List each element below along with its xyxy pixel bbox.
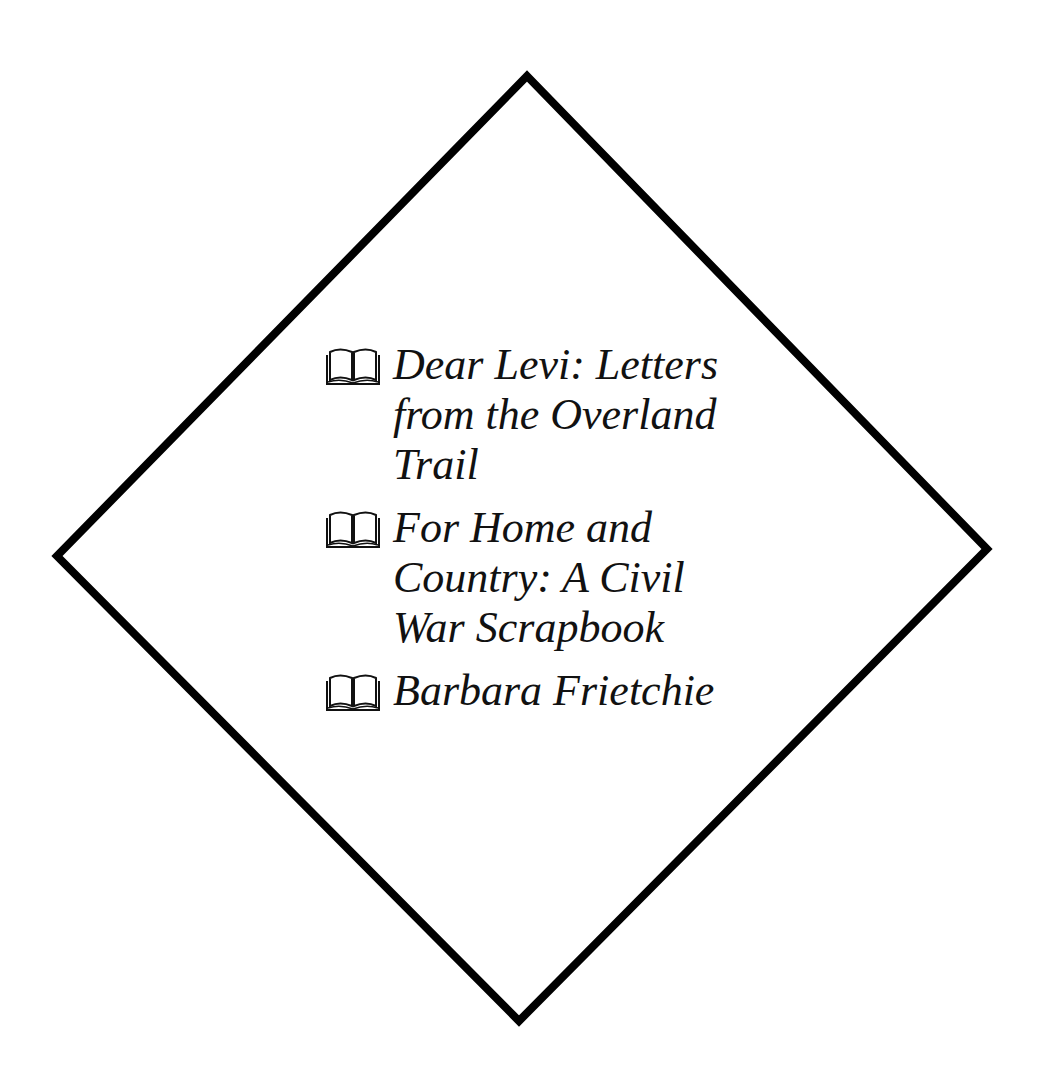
book-title: Barbara Frietchie bbox=[393, 666, 766, 716]
book-item: Dear Levi: Letters from the Overland Tra… bbox=[326, 340, 766, 490]
book-list: Dear Levi: Letters from the Overland Tra… bbox=[326, 340, 766, 729]
book-item: For Home and Country: A Civil War Scrapb… bbox=[326, 503, 766, 653]
open-book-icon bbox=[326, 672, 380, 712]
book-item: Barbara Frietchie bbox=[326, 666, 766, 716]
book-title: Dear Levi: Letters from the Overland Tra… bbox=[393, 340, 766, 490]
book-title: For Home and Country: A Civil War Scrapb… bbox=[393, 503, 766, 653]
open-book-icon bbox=[326, 509, 380, 549]
open-book-icon bbox=[326, 346, 380, 386]
